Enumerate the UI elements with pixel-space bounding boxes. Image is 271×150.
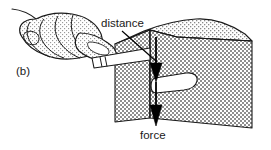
distance-label: distance [101,17,144,29]
block-front-left-face [115,30,150,122]
stone-block [115,19,252,128]
panel-label: (b) [16,65,30,77]
figure-container: distance force (b) [0,0,271,150]
wrist-line [12,9,36,19]
force-label: force [140,129,166,141]
physics-diagram-force-distance: distance force (b) [0,0,271,150]
